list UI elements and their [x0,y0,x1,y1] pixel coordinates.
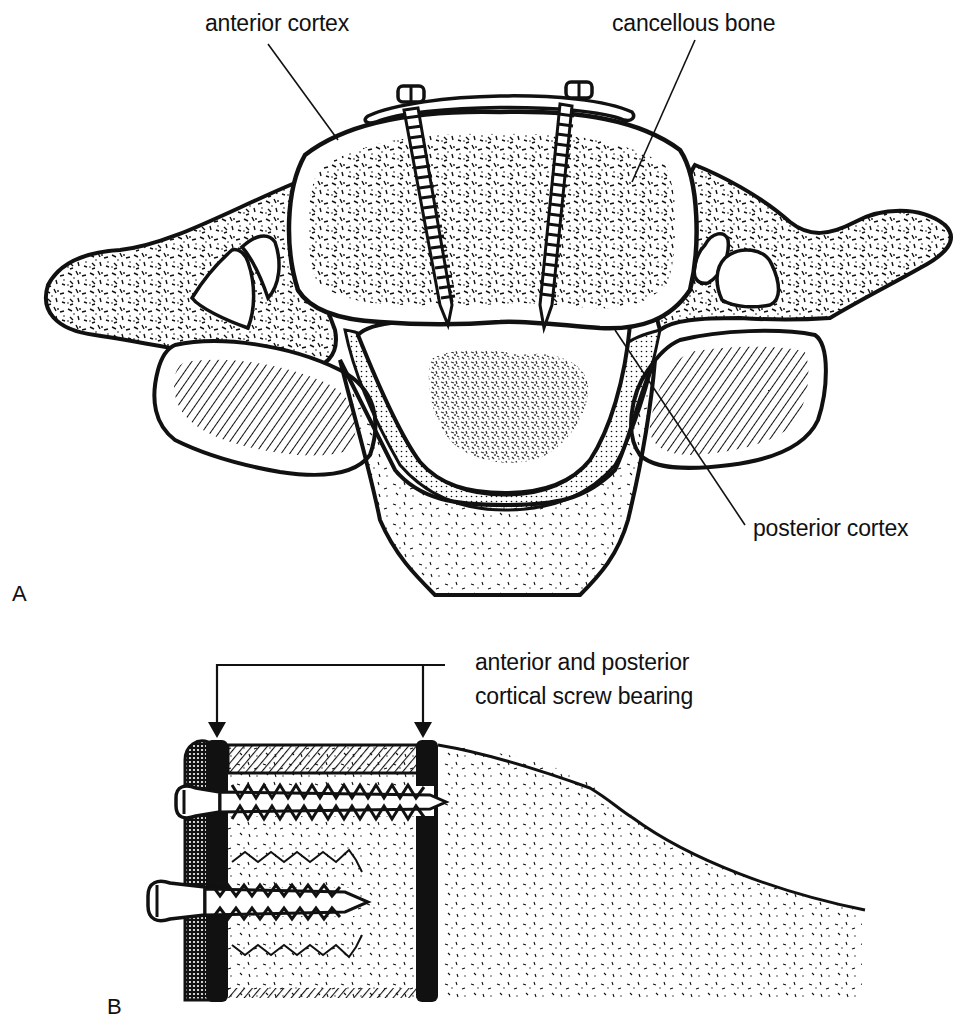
panel-letter-a: A [12,583,27,605]
endplate-bottom [228,988,422,998]
right-foramen-large [717,250,778,307]
bearing-bracket [217,665,445,725]
leader-anterior-cortex [268,44,338,140]
vertebral-body-sagittal [214,745,436,1000]
arrow-anterior [208,722,226,738]
label-posterior-cortex: posterior cortex [753,517,908,540]
anterior-cortex-sagittal [206,740,228,1002]
panel-letter-b: B [107,996,122,1018]
bicortical-screw [176,785,446,819]
label-cancellous-bone: cancellous bone [612,12,775,35]
panel-a [46,40,951,595]
label-anterior-cortex: anterior cortex [205,12,349,35]
panel-b [148,665,865,1002]
posterior-elements [440,745,862,1000]
label-bearing-line1: anterior and posterior [475,646,689,678]
posterior-cortex-sagittal [416,740,438,1002]
right-transverse-process [656,165,951,330]
arrow-posterior [414,722,432,738]
cancellous-bone-region [308,134,676,309]
endplate-top [228,745,422,773]
label-bearing-line2: cortical screw bearing [475,680,693,712]
